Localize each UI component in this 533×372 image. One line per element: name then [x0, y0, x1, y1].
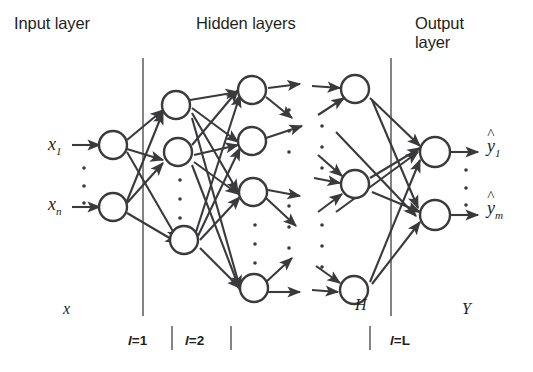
dot-gap-1 — [287, 108, 291, 112]
dot-l2-3 — [253, 261, 257, 265]
edge-h2b-out-a — [266, 126, 302, 138]
dot-output-2 — [464, 186, 468, 190]
node-input-2 — [99, 193, 127, 221]
layer-tick-rest-2: =2 — [189, 333, 204, 348]
input-layer-header: Input layer — [14, 14, 90, 33]
hidden-nodes-lL — [340, 75, 369, 304]
layer-tick-label-3: l=L — [390, 333, 410, 348]
input-node-label-x1-sub: 1 — [56, 145, 62, 157]
output-layer-header: Output layer — [415, 14, 464, 52]
input-group-label: x — [63, 300, 70, 318]
edge-in-hL-a1 — [312, 86, 340, 88]
node-lL-1 — [341, 75, 369, 103]
node-output-1 — [420, 137, 450, 167]
node-output-2 — [420, 200, 450, 230]
output-node-label-y1-hatwrap: ^y — [487, 136, 495, 157]
input-node-label-xn-sub: n — [56, 205, 62, 217]
edge-in-hL-c2 — [316, 266, 340, 283]
network-diagram-svg — [0, 0, 533, 372]
edge-in-hL-c1 — [312, 290, 338, 292]
edge-h2c-out-b — [266, 198, 296, 226]
output-nodes — [420, 137, 450, 230]
dot-input-1 — [82, 166, 86, 170]
dot-gap-5 — [287, 225, 291, 229]
node-l1-3 — [170, 226, 198, 254]
input-nodes — [99, 131, 127, 221]
layer-tick-label-2: l=2 — [185, 333, 204, 348]
edge-h2a-out-a — [268, 84, 300, 88]
dot-lL-6 — [320, 265, 324, 269]
output-node-label-ym: ^ym — [487, 198, 503, 221]
layer-tick-rest-3: =L — [394, 333, 410, 348]
hat-icon: ^ — [487, 126, 494, 141]
dot-lL-3 — [320, 166, 324, 170]
connection-edges — [72, 84, 478, 292]
edge-in-hL-b2 — [318, 155, 342, 176]
hidden-group-label: H — [355, 296, 367, 314]
input-node-label-xn-base: x — [48, 194, 56, 214]
dot-lL-5 — [320, 244, 324, 248]
layer-tick-label-1: l=1 — [128, 333, 147, 348]
output-node-label-ym-sub: m — [495, 209, 503, 221]
node-l2-1 — [238, 76, 266, 104]
dot-gap-4 — [287, 204, 291, 208]
dot-lL-4 — [320, 223, 324, 227]
node-l1-1 — [162, 91, 190, 119]
edge-h1a-h2d — [192, 118, 240, 288]
edge-in2-h1b — [127, 163, 163, 203]
node-lL-2 — [341, 170, 369, 198]
hidden-layers-header: Hidden layers — [196, 14, 296, 33]
dot-input-3 — [82, 201, 86, 205]
edge-h2c-out-a — [268, 190, 300, 196]
dot-output-3 — [464, 203, 468, 207]
dot-input-2 — [82, 184, 86, 188]
edge-in-hL-b1 — [314, 178, 340, 183]
input-node-label-x1: x1 — [48, 134, 62, 157]
edge-hL-c-o2 — [372, 222, 420, 284]
node-input-1 — [99, 131, 127, 159]
output-group-label: Y — [462, 300, 471, 318]
dot-lL-1 — [320, 124, 324, 128]
hidden-nodes-l2 — [238, 76, 268, 302]
input-node-label-xn: xn — [48, 194, 62, 217]
edge-hL-a-o1 — [370, 98, 420, 146]
node-l2-3 — [239, 178, 267, 206]
dot-gap-3 — [287, 150, 291, 154]
edge-h2a-out-b — [266, 97, 292, 118]
hat-icon: ^ — [487, 188, 494, 203]
dot-gap-6 — [287, 246, 291, 250]
dot-l1-3 — [178, 216, 182, 220]
edge-hL-c-o1 — [370, 160, 420, 282]
dot-l2-1 — [253, 223, 257, 227]
node-l2-4 — [240, 274, 268, 302]
dot-gap-2 — [287, 129, 291, 133]
output-node-label-y1-sub: 1 — [495, 147, 501, 159]
dot-output-1 — [464, 168, 468, 172]
output-node-label-ym-hatwrap: ^y — [487, 198, 495, 219]
node-l1-2 — [164, 138, 192, 166]
input-node-label-x1-base: x — [48, 134, 56, 154]
edge-in-hL-a2 — [318, 98, 344, 115]
node-l2-2 — [238, 127, 266, 155]
layer-tick-rest-1: =1 — [132, 333, 147, 348]
output-node-label-y1: ^y1 — [487, 136, 501, 159]
figure-canvas: Input layer Hidden layers Output layer x… — [0, 0, 533, 372]
dot-l1-2 — [178, 197, 182, 201]
dot-l1-1 — [178, 178, 182, 182]
dot-l2-2 — [253, 242, 257, 246]
edge-h2d-out-a — [266, 258, 292, 282]
dot-lL-2 — [320, 145, 324, 149]
